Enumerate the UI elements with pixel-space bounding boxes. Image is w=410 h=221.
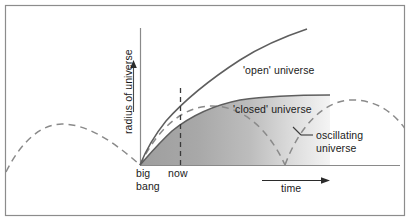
oscillating-universe-label-line2: universe: [316, 142, 357, 154]
oscillating-universe-label: oscillatinguniverse: [316, 129, 363, 155]
time-axis-label: time: [281, 182, 301, 194]
closed-universe-label: 'closed' universe: [233, 103, 312, 115]
big-bang-label: bigbang: [136, 167, 160, 192]
diagram-canvas: [0, 0, 410, 221]
cosmology-expansion-diagram: radius of universe 'open' universe 'clos…: [0, 0, 410, 221]
open-universe-label: 'open' universe: [243, 64, 314, 76]
y-axis-label: radius of universe: [122, 49, 134, 134]
now-label: now: [168, 167, 188, 179]
big-bang-label-line1: big: [136, 167, 150, 179]
oscillating-universe-label-line1: oscillating: [316, 129, 363, 141]
oscillating-universe-arc-left: [6, 124, 140, 172]
big-bang-label-line2: bang: [136, 180, 160, 192]
